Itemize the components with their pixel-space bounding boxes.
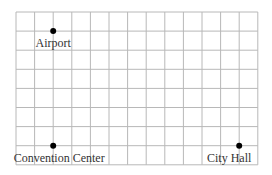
city-hall-label: City Hall <box>207 151 252 165</box>
grid-lines <box>16 12 258 165</box>
grid-map: Airport Convention Center City Hall <box>0 0 272 175</box>
airport-label: Airport <box>36 36 72 50</box>
points: Airport Convention Center City Hall <box>14 28 252 165</box>
airport-dot <box>50 28 56 34</box>
city-hall-dot <box>236 143 242 149</box>
convention-center-dot <box>50 143 56 149</box>
convention-center-label: Convention Center <box>14 151 105 165</box>
